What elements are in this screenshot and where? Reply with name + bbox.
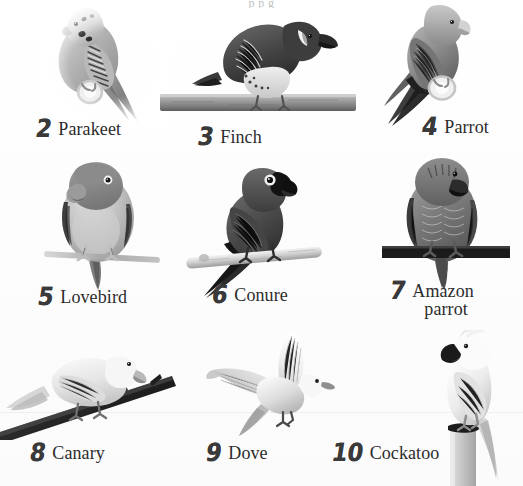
caption-amazon-parrot: 7 Amazonparrot bbox=[388, 282, 474, 319]
item-canary[interactable] bbox=[0, 336, 180, 440]
item-amazon-parrot[interactable]: 7 Amazonparrot bbox=[382, 156, 510, 290]
item-label: Conure bbox=[234, 286, 288, 304]
item-number: 6 bbox=[210, 283, 230, 308]
scanned-page: p p g bbox=[0, 0, 523, 486]
item-parrot[interactable]: 4 Parrot bbox=[370, 0, 490, 128]
item-number: 5 bbox=[36, 285, 56, 310]
item-label: Finch bbox=[220, 128, 262, 146]
item-label: Amazonparrot bbox=[412, 282, 474, 319]
item-number: 10 bbox=[330, 441, 365, 466]
caption-conure: 6 Conure bbox=[210, 286, 288, 308]
item-label: Lovebird bbox=[60, 288, 127, 306]
item-finch[interactable]: 3 Finch bbox=[158, 10, 358, 126]
item-number: 8 bbox=[28, 441, 48, 466]
caption-lovebird: 5 Lovebird bbox=[36, 288, 127, 310]
finch-bird-photo bbox=[158, 10, 358, 126]
item-parakeet[interactable]: 2 Parakeet bbox=[40, 2, 170, 128]
dove-bird-photo bbox=[205, 330, 345, 446]
caption-parakeet: 2 Parakeet bbox=[34, 120, 121, 142]
caption-parrot: 4 Parrot bbox=[420, 118, 489, 140]
parrot-bird-photo bbox=[370, 0, 490, 128]
item-number: 9 bbox=[204, 441, 224, 466]
caption-canary: 8 Canary bbox=[28, 444, 105, 466]
item-number: 7 bbox=[388, 279, 408, 304]
item-label: Parakeet bbox=[58, 120, 121, 138]
amazon-parrot-bird-photo bbox=[382, 156, 510, 290]
parakeet-bird-photo bbox=[40, 2, 170, 128]
caption-cockatoo: 10 Cockatoo bbox=[330, 444, 439, 466]
caption-dove: 9 Dove bbox=[204, 444, 268, 466]
item-conure[interactable]: 6 Conure bbox=[182, 160, 332, 300]
item-number: 3 bbox=[196, 125, 216, 150]
item-label: Cockatoo bbox=[370, 444, 440, 462]
item-label-line2: parrot bbox=[412, 300, 474, 318]
item-lovebird[interactable]: 5 Lovebird bbox=[40, 158, 170, 292]
canary-bird-photo bbox=[0, 336, 180, 440]
item-label: Canary bbox=[52, 444, 105, 462]
item-number: 2 bbox=[34, 117, 54, 142]
caption-finch: 3 Finch bbox=[196, 128, 262, 150]
item-dove[interactable] bbox=[205, 330, 345, 446]
item-number: 4 bbox=[420, 115, 440, 140]
lovebird-bird-photo bbox=[40, 158, 170, 292]
item-label: Dove bbox=[228, 444, 267, 462]
conure-bird-photo bbox=[182, 160, 332, 300]
item-label: Parrot bbox=[444, 118, 489, 136]
